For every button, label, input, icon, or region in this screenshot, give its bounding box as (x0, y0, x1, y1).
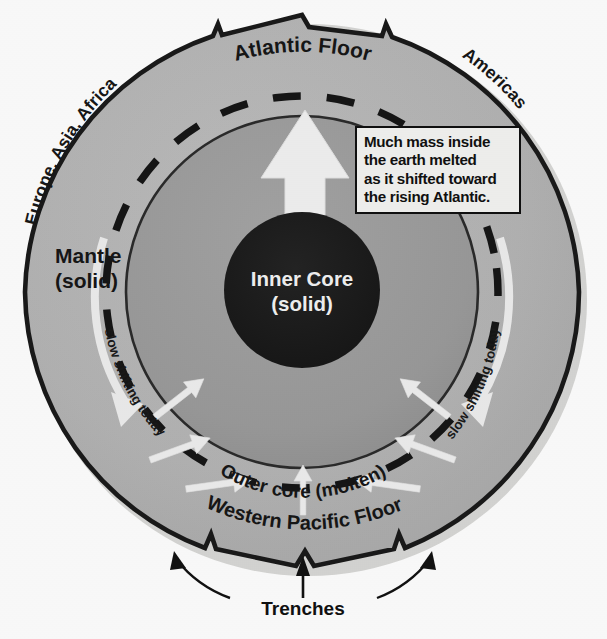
inner-core-circle (224, 212, 380, 368)
trench-arrowhead-left (170, 551, 186, 570)
callout-line-3: as it shifted toward (364, 170, 513, 188)
diagram-canvas: Inner Core (solid) (0, 0, 607, 639)
mantle-label-line1: Mantle (55, 244, 122, 267)
callout-line-2: the earth melted (364, 151, 513, 169)
mantle-label-line2: (solid) (55, 269, 118, 292)
callout-line-4: the rising Atlantic. (364, 188, 513, 206)
earth-cross-section-svg: Inner Core (solid) (0, 0, 607, 639)
callout-line-1: Much mass inside (364, 133, 513, 151)
callout-box: Much mass inside the earth melted as it … (355, 126, 521, 214)
trenches-label: Trenches (261, 598, 344, 619)
inner-core-label-line2: (solid) (271, 292, 333, 315)
inner-core-layer: Inner Core (solid) (224, 212, 380, 368)
trench-arrowhead-right (420, 551, 436, 570)
inner-core-label-line1: Inner Core (251, 267, 354, 290)
trench-bracket-left (176, 559, 230, 598)
